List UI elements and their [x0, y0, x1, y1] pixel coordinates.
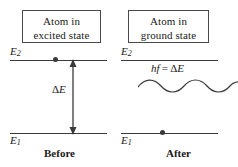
e2-symbol-after: E	[121, 45, 128, 57]
energy-level-line-e2-after	[121, 60, 218, 61]
delta-e-label: ΔE	[52, 83, 66, 95]
excited-state-box-line1: Atom in	[23, 14, 100, 28]
emitted-photon-wave-arrow	[138, 74, 238, 96]
ground-state-box-line2: ground state	[129, 28, 208, 42]
photon-energy-symbol: E	[177, 62, 184, 74]
delta-energy-symbol: E	[59, 83, 66, 95]
e2-symbol-before: E	[10, 45, 17, 57]
equals-sign: =	[160, 62, 171, 74]
panel-after: Atom in ground state E2 E1 hf = ΔE After	[119, 0, 238, 167]
caption-before: Before	[0, 147, 119, 159]
energy-transition-arrow	[58, 59, 88, 135]
electron-dot-ground	[160, 130, 165, 135]
e2-subscript-before: 2	[17, 49, 21, 58]
energy-level-label-e2-before: E2	[10, 45, 21, 60]
ground-state-box: Atom in ground state	[128, 10, 209, 43]
panel-before: Atom in excited state E2 E1 ΔE Before	[0, 0, 119, 167]
e2-subscript-after: 2	[128, 49, 132, 58]
excited-state-box-line2: excited state	[23, 28, 100, 42]
e1-subscript-before: 1	[17, 138, 21, 147]
ground-state-box-line1: Atom in	[129, 14, 208, 28]
e1-symbol-after: E	[121, 134, 128, 146]
e1-symbol-before: E	[10, 134, 17, 146]
energy-level-line-e1-after	[121, 133, 218, 134]
energy-level-label-e2-after: E2	[121, 45, 132, 60]
energy-level-diagram: Atom in excited state E2 E1 ΔE Before At…	[0, 0, 238, 167]
caption-after: After	[119, 147, 238, 159]
photon-energy-label: hf = ΔE	[151, 62, 184, 74]
excited-state-box: Atom in excited state	[22, 10, 101, 43]
e1-subscript-after: 1	[128, 138, 132, 147]
